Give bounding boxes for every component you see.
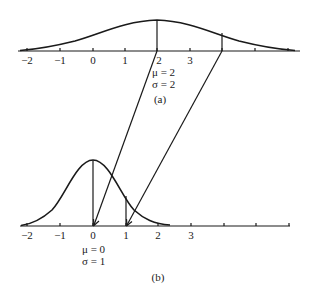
caption-b: (b) — [152, 272, 165, 283]
tick-label-b-2: 2 — [155, 230, 161, 241]
tick-label-a-1: 1 — [122, 55, 128, 66]
tick-label-a-neg2: −2 — [21, 55, 33, 66]
tick-label-a-neg1: −1 — [54, 55, 66, 66]
tick-label-b-neg1: −1 — [54, 230, 66, 241]
caption-a: (a) — [154, 94, 166, 105]
tick-label-b-1: 1 — [123, 230, 129, 241]
tick-label-b-0: 0 — [90, 230, 96, 241]
sigma-label-a: σ = 2 — [152, 78, 175, 90]
tick-label-b-3: 3 — [188, 230, 194, 241]
normal-curve-b — [21, 160, 170, 226]
mu-label-a: μ = 2 — [152, 66, 175, 78]
tick-label-a-2: 2 — [156, 55, 162, 66]
tick-label-a-3: 3 — [187, 55, 193, 66]
sigma-label-b: σ = 1 — [82, 255, 105, 267]
mu-label-b: μ = 0 — [82, 243, 105, 255]
tick-label-b-neg2: −2 — [21, 230, 33, 241]
diagram-canvas — [0, 0, 310, 287]
tick-label-a-0: 0 — [90, 55, 96, 66]
